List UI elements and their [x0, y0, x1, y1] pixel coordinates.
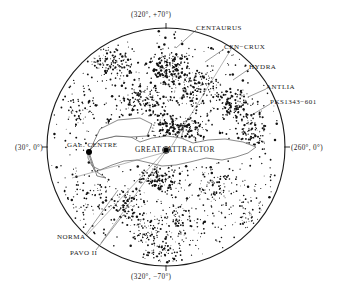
galaxy-point [212, 181, 213, 182]
galaxy-point [171, 75, 173, 77]
galaxy-point [122, 222, 124, 224]
galaxy-point [165, 125, 166, 126]
galaxy-point [243, 99, 245, 101]
galaxy-point [175, 216, 176, 217]
galaxy-point [112, 60, 114, 62]
galaxy-point [119, 67, 120, 68]
galaxy-point [121, 102, 122, 103]
galaxy-point [172, 100, 173, 101]
galaxy-point [73, 204, 74, 205]
galaxy-point [228, 64, 229, 65]
galaxy-point [55, 166, 58, 169]
galaxy-point [144, 90, 145, 91]
galaxy-point [203, 76, 206, 79]
galaxy-point [121, 55, 124, 58]
galaxy-point [212, 212, 214, 214]
galaxy-point [201, 72, 203, 74]
galaxy-point [147, 244, 149, 246]
galaxy-point [89, 193, 90, 194]
galaxy-point [189, 68, 190, 69]
label-gal-centre: GAL. CENTRE [67, 142, 118, 149]
galaxy-point [179, 250, 181, 252]
galaxy-point [155, 114, 156, 115]
galaxy-point [152, 185, 154, 187]
galaxy-point [162, 179, 163, 180]
galaxy-point [185, 118, 186, 119]
galaxy-point [197, 226, 199, 228]
galaxy-point [161, 52, 163, 54]
galaxy-point [184, 190, 185, 191]
galaxy-point [105, 186, 107, 188]
galaxy-point [115, 188, 116, 189]
galaxy-point [172, 221, 174, 223]
galaxy-point [142, 91, 143, 92]
galaxy-point [102, 174, 103, 175]
galaxy-point [164, 55, 166, 57]
galaxy-point [68, 101, 69, 102]
galaxy-point [176, 252, 178, 254]
galaxy-point [119, 193, 121, 195]
galaxy-point [230, 111, 232, 113]
galaxy-point [204, 232, 206, 234]
galaxy-point [233, 54, 234, 55]
galaxy-point [136, 72, 137, 73]
galaxy-point [162, 117, 163, 118]
galaxy-point [262, 135, 264, 137]
galaxy-point [219, 189, 220, 190]
galaxy-point [101, 75, 102, 76]
galaxy-point [209, 91, 210, 92]
galaxy-point [152, 168, 153, 169]
galaxy-point [244, 221, 245, 222]
galaxy-point [136, 94, 138, 96]
galaxy-point [248, 134, 249, 135]
galaxy-point [185, 210, 187, 212]
galaxy-point [196, 88, 198, 90]
galaxy-point [230, 207, 231, 208]
galaxy-point [161, 185, 163, 187]
galaxy-point [183, 230, 184, 231]
galaxy-point [192, 92, 194, 94]
label-pavo-ii: PAVO II [70, 250, 97, 257]
galaxy-point [182, 171, 183, 172]
galaxy-point [258, 205, 259, 206]
galaxy-point [99, 204, 101, 206]
galaxy-point [123, 60, 125, 62]
galaxy-point [172, 115, 174, 117]
galaxy-point [146, 172, 148, 174]
galaxy-point [229, 168, 231, 170]
galaxy-point [229, 209, 230, 210]
galaxy-point [194, 79, 196, 81]
galaxy-point [190, 128, 191, 129]
galaxy-point [128, 108, 129, 109]
galaxy-point [213, 90, 214, 91]
galaxy-point [166, 261, 169, 264]
galaxy-point [160, 69, 162, 71]
galaxy-point [113, 59, 114, 60]
galaxy-point [97, 81, 98, 82]
galaxy-point [113, 245, 115, 247]
galaxy-point [169, 207, 170, 208]
galaxy-point [178, 128, 180, 130]
galaxy-point [182, 94, 184, 96]
galaxy-point [57, 182, 58, 183]
galaxy-point [97, 61, 99, 63]
galaxy-point [112, 68, 114, 70]
galaxy-point [92, 114, 93, 115]
galaxy-point [144, 192, 145, 193]
galaxy-point [214, 199, 215, 200]
galaxy-point [181, 204, 182, 205]
galaxy-point [145, 258, 146, 259]
galaxy-point [132, 84, 134, 86]
galaxy-point [210, 110, 212, 112]
galaxy-point [83, 219, 84, 220]
galaxy-point [225, 225, 226, 226]
galaxy-point [167, 62, 169, 64]
galaxy-point [164, 247, 165, 248]
galaxy-point [172, 78, 173, 79]
galaxy-point [173, 171, 175, 173]
galaxy-point [200, 116, 201, 117]
galaxy-point [78, 105, 80, 107]
galaxy-point [233, 236, 235, 238]
galaxy-point [254, 189, 255, 190]
galaxy-point [230, 193, 232, 195]
